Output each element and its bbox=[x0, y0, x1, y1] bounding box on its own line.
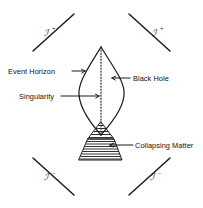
scri-sign-bottom-left: − bbox=[52, 170, 56, 176]
scri-label-bottom-right: ℐ − bbox=[150, 170, 162, 182]
event-horizon-leader bbox=[72, 69, 85, 73]
diagram-canvas: ℐ + ℐ + ℐ − ℐ − bbox=[0, 0, 203, 208]
scri-glyph-top-right: ℐ bbox=[152, 28, 158, 38]
penrose-diagram: ℐ + ℐ + ℐ − ℐ − bbox=[0, 0, 203, 208]
scri-sign-bottom-right: − bbox=[158, 170, 162, 176]
label-collapsing-matter: Collapsing Matter bbox=[135, 141, 194, 150]
null-infinity-line-top-right bbox=[129, 14, 170, 51]
event-horizon-left-curve bbox=[79, 47, 101, 135]
label-black-hole: Black Hole bbox=[133, 74, 169, 83]
null-infinity-line-top-left bbox=[33, 14, 74, 51]
event-horizon-right-curve bbox=[101, 47, 124, 135]
null-infinity-line-bottom-left bbox=[33, 158, 74, 195]
label-singularity: Singularity bbox=[19, 92, 54, 101]
label-event-horizon: Event Horizon bbox=[8, 67, 55, 76]
scri-label-bottom-left: ℐ − bbox=[44, 170, 56, 182]
scri-sign-top-right: + bbox=[160, 26, 164, 32]
scri-label-top-right: ℐ + bbox=[152, 26, 164, 38]
singularity-leader bbox=[61, 94, 99, 98]
scri-glyph-bottom-right: ℐ bbox=[150, 172, 156, 182]
